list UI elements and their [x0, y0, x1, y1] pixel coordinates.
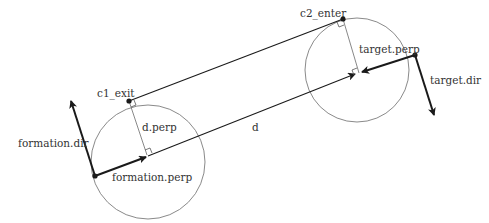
diagram-svg	[0, 0, 489, 223]
target-perp-arrow	[362, 55, 415, 72]
label-d: d	[252, 122, 259, 133]
label-formation-perp: formation.perp	[112, 172, 192, 183]
target-circle	[305, 18, 409, 122]
label-c2-enter: c2_enter	[300, 8, 346, 19]
tangent-line-top	[129, 19, 343, 101]
d-line	[148, 74, 355, 156]
c1-exit-point	[126, 98, 131, 103]
label-target-perp: target.perp	[359, 44, 420, 55]
label-formation-dir: formation.dir	[18, 138, 89, 149]
label-d-perp: d.perp	[142, 122, 177, 133]
formation-point	[92, 173, 97, 178]
d-perp-line-2	[343, 19, 359, 73]
diagram-canvas: c1_exit c2_enter d.perp d formation.dir …	[0, 0, 489, 223]
label-target-dir: target.dir	[430, 75, 481, 86]
right-angle-marker-c2-enter	[337, 22, 344, 27]
label-c1-exit: c1_exit	[97, 88, 135, 99]
